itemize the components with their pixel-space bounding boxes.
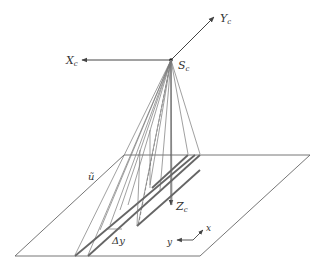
zc-label: Zc <box>175 200 188 214</box>
yc-axis <box>171 17 214 60</box>
yc-label: Yc <box>220 12 231 26</box>
local-x-axis <box>193 230 203 240</box>
camera-axes <box>82 17 214 205</box>
light-planes <box>106 130 150 229</box>
local-x-label: x <box>206 223 211 233</box>
sc-label: Sc <box>178 59 190 73</box>
local-y-label: y <box>166 237 173 247</box>
u-label: ũ <box>88 171 94 182</box>
delta-y-label: Δy <box>111 235 125 246</box>
xc-label: Xc <box>65 54 78 68</box>
camera-projection-diagram: Xc Yc Sc Zc ũ Δy x y <box>0 0 322 270</box>
local-axes <box>177 230 203 240</box>
ground-plane <box>15 155 310 256</box>
